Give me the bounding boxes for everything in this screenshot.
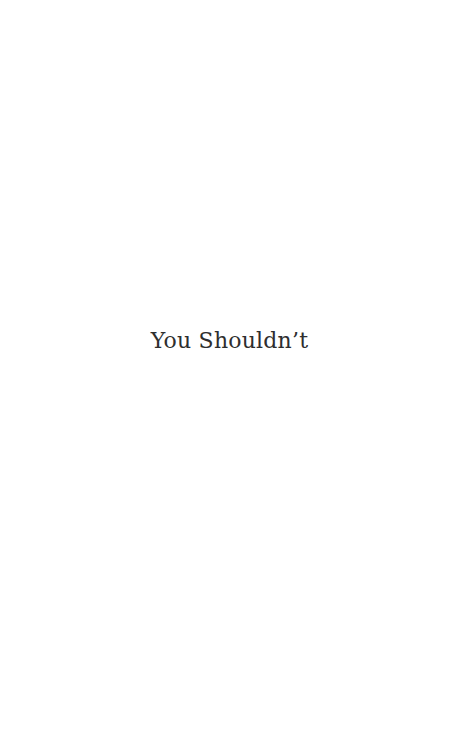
book-page: You Shouldn’t bbox=[0, 0, 459, 741]
page-title: You Shouldn’t bbox=[0, 327, 459, 355]
